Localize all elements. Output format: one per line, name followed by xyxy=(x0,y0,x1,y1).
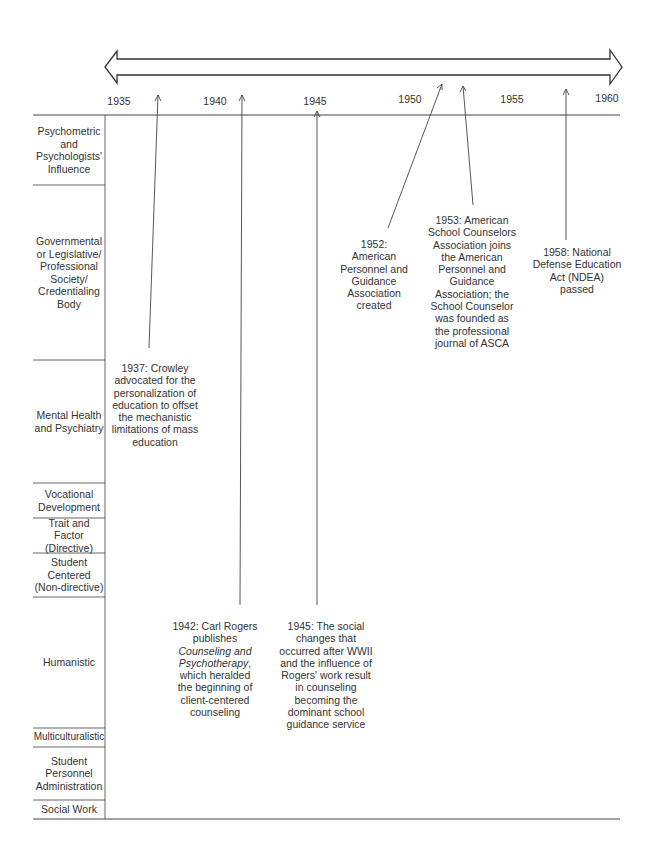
category-student-personnel: Student Personnel Administration xyxy=(33,747,105,800)
category-social-work: Social Work xyxy=(33,800,105,819)
year-label-1955: 1955 xyxy=(500,93,523,105)
category-humanistic: Humanistic xyxy=(33,597,105,728)
year-label-1960: 1960 xyxy=(595,92,618,104)
year-label-1940: 1940 xyxy=(203,95,226,107)
event-1942-text-pre: 1942: Carl Rogers publishes xyxy=(172,620,257,644)
pointer-arrow-1942 xyxy=(239,95,245,605)
pointer-arrow-1958 xyxy=(563,89,569,240)
event-1958-ndea: 1958: National Defense Education Act (ND… xyxy=(532,246,622,295)
category-psychometric: Psychometric and Psychologists' Influenc… xyxy=(33,115,105,185)
pointer-arrow-1953 xyxy=(460,86,473,205)
event-1942-rogers: 1942: Carl Rogers publishes Counseling a… xyxy=(172,620,258,718)
pointer-arrow-1952 xyxy=(388,84,442,228)
event-1942-book-title: Counseling and Psychotherapy xyxy=(179,645,252,669)
pointer-arrow-1945 xyxy=(314,111,320,605)
category-student-centered: Student Centered (Non-directive) xyxy=(33,553,105,597)
year-label-1935: 1935 xyxy=(107,95,130,107)
event-1937-crowley: 1937: Crowley advocated for the personal… xyxy=(111,362,199,448)
category-governmental: Governmental or Legislative/ Professiona… xyxy=(33,185,105,360)
category-mental-health: Mental Health and Psychiatry xyxy=(33,360,105,483)
category-vocational: Vocational Development xyxy=(33,483,105,518)
category-trait-factor: Trait and Factor (Directive) xyxy=(33,518,105,553)
category-multiculturalistic: Multiculturalistic xyxy=(31,728,107,747)
event-1945-social-changes: 1945: The social changes that occurred a… xyxy=(278,620,374,731)
pointer-arrow-1937 xyxy=(149,95,161,348)
timeline-double-arrow xyxy=(105,50,622,84)
year-label-1945: 1945 xyxy=(303,95,326,107)
event-1953-asca: 1953: American School Counselors Associa… xyxy=(427,214,517,349)
event-1952-apga: 1952: American Personnel and Guidance As… xyxy=(338,238,410,312)
year-label-1950: 1950 xyxy=(398,93,421,105)
